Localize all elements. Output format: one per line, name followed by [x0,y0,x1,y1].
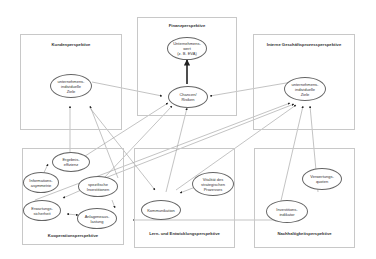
node-spezifische-investitionen: spezifische Investitionen [78,176,118,197]
node-informationsasymmetrie: Informations- asymmetrie [23,172,59,193]
perspective-title: Nachhaltigkeitsperspektive [255,231,354,236]
node-ergebnis-effizienz: Ergebnis- effizienz [52,152,90,172]
node-vitalitaet: Vitalität des strategischen Prozesses [192,172,234,196]
perspective-title: Kooperationsperspektive [23,233,123,238]
node-erwartungssicherheit: Erwartungs- sicherheit [23,200,61,221]
node-intern-ziele: unternehmens- individuelle Ziele [284,77,326,101]
perspective-nachhaltigkeit: Nachhaltigkeitsperspektive [254,148,355,248]
node-kunden-ziele: unternehmens- individuelle Ziele [50,74,92,98]
perspective-lern: Lern- und Entwicklungsperspektive [134,148,235,248]
node-chancen-risiken: Chancen/ Risiken [168,86,208,108]
node-unternehmenswert: Unternehmens- wert (z. B. EVA) [167,37,207,60]
perspective-title: Lern- und Entwicklungsperspektive [135,231,234,236]
node-verwertungsquoten: Verwertungs- quoten [302,168,342,190]
perspective-title: Finanzperspektive [138,23,236,28]
node-investitionsindikator: Investitions- indikator [266,200,308,223]
node-anlagenauslastung: Anlageneaus- lastung [77,208,117,229]
node-kommunikation: Kommunikation [141,200,181,220]
perspective-title: Interne Geschäftsprozessperspektive [254,42,354,47]
perspective-title: Kundenperspektive [21,42,121,47]
